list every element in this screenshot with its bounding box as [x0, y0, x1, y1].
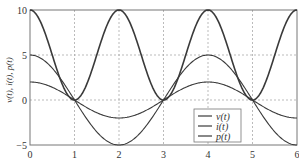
x-tick-label: 6	[295, 149, 300, 160]
legend-label: p(t)	[215, 131, 231, 143]
x-tick-labels: 0123456	[28, 149, 300, 160]
x-tick-label: 5	[250, 149, 255, 160]
x-tick-label: 2	[117, 149, 122, 160]
chart: 0123456 −50510 v(t), i(t), p(t) v(t)i(t)…	[0, 0, 299, 165]
y-tick-label: 10	[17, 5, 27, 16]
y-tick-label: −5	[16, 140, 27, 151]
y-tick-labels: −50510	[16, 5, 27, 151]
grid-lines	[30, 10, 297, 145]
y-axis-label: v(t), i(t), p(t)	[4, 57, 14, 102]
x-tick-label: 3	[161, 149, 166, 160]
x-tick-label: 1	[72, 149, 77, 160]
x-tick-label: 4	[206, 149, 211, 160]
y-tick-label: 0	[22, 95, 27, 106]
y-tick-label: 5	[22, 50, 27, 61]
legend: v(t)i(t)p(t)	[194, 109, 241, 143]
x-tick-label: 0	[28, 149, 33, 160]
